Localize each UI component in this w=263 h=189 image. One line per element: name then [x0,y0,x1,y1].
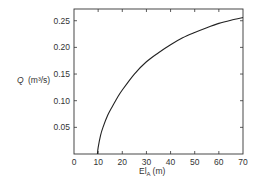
y-tick-label: 0.10 [53,96,70,106]
y-tick-label: 0.15 [53,69,70,79]
x-tick-label: 50 [190,157,200,167]
data-curve [97,18,243,154]
chart: 010203040506070 0.050.100.150.200.25 Q (… [0,0,263,189]
y-axis-ticks: 0.050.100.150.200.25 [53,16,243,133]
y-tick-label: 0.20 [53,42,70,52]
x-tick-label: 70 [238,157,248,167]
plot-area: 010203040506070 0.050.100.150.200.25 [53,9,248,167]
y-tick-label: 0.05 [53,122,70,132]
plot-frame [74,9,243,154]
x-tick-label: 20 [118,157,128,167]
x-tick-label: 10 [93,157,103,167]
x-axis-label: ElA(m) [139,166,165,177]
x-tick-label: 60 [214,157,224,167]
y-axis-label: Q (m³/s) [17,75,50,85]
x-tick-label: 0 [72,157,77,167]
x-tick-label: 40 [166,157,176,167]
x-axis-ticks: 010203040506070 [72,9,248,167]
y-tick-label: 0.25 [53,16,70,26]
